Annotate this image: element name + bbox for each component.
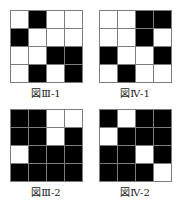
figure-caption-fig-4-2: 図Ⅳ-2: [120, 187, 150, 199]
grid-cell: [11, 164, 28, 181]
grid-cell: [100, 29, 117, 46]
grid-cell: [11, 128, 28, 145]
grid-cell: [154, 110, 171, 127]
figure-row-bottom: 図Ⅲ-2 図Ⅳ-2: [0, 109, 181, 199]
grid-cell: [136, 65, 153, 82]
grid-cell: [154, 29, 171, 46]
grid-cell: [154, 164, 171, 181]
grid-cell: [65, 47, 82, 64]
figure-fig-4-2: 図Ⅳ-2: [99, 109, 172, 199]
grid-cell: [65, 164, 82, 181]
figure-caption-fig-4-1: 図Ⅳ-1: [120, 88, 150, 100]
grid-cell: [47, 164, 64, 181]
grid-cell: [29, 29, 46, 46]
grid-cell: [29, 47, 46, 64]
figure-fig-3-1: 図Ⅲ-1: [10, 10, 83, 100]
grid-cell: [29, 146, 46, 163]
figure-caption-fig-3-1: 図Ⅲ-1: [31, 88, 60, 100]
grid-cell: [136, 47, 153, 64]
figure-collection: 図Ⅲ-1 図Ⅳ-1 図Ⅲ-2 図Ⅳ-2: [0, 0, 181, 199]
figure-caption-fig-3-2: 図Ⅲ-2: [31, 187, 60, 199]
grid-cell: [118, 146, 135, 163]
grid-cell: [11, 11, 28, 28]
grid-cell: [47, 11, 64, 28]
grid-cell: [100, 164, 117, 181]
grid-cell: [118, 11, 135, 28]
grid-cell: [136, 164, 153, 181]
grid-cell: [65, 29, 82, 46]
grid-cell: [29, 11, 46, 28]
grid-cell: [118, 164, 135, 181]
figure-fig-4-1: 図Ⅳ-1: [99, 10, 172, 100]
grid-cell: [100, 128, 117, 145]
grid-fig-4-2: [99, 109, 172, 182]
grid-cell: [65, 11, 82, 28]
grid-cell: [100, 146, 117, 163]
grid-cell: [118, 110, 135, 127]
grid-cell: [118, 47, 135, 64]
grid-cell: [154, 128, 171, 145]
grid-cell: [118, 29, 135, 46]
grid-cell: [118, 128, 135, 145]
grid-cell: [136, 110, 153, 127]
figure-sheet: 図Ⅲ-1 図Ⅳ-1 図Ⅲ-2 図Ⅳ-2: [0, 0, 181, 214]
figure-row-top: 図Ⅲ-1 図Ⅳ-1: [0, 10, 181, 100]
grid-cell: [154, 11, 171, 28]
grid-cell: [136, 146, 153, 163]
grid-cell: [11, 110, 28, 127]
grid-cell: [29, 164, 46, 181]
grid-cell: [136, 29, 153, 46]
grid-cell: [100, 65, 117, 82]
grid-cell: [47, 65, 64, 82]
grid-cell: [47, 110, 64, 127]
grid-fig-3-1: [10, 10, 83, 83]
grid-fig-4-1: [99, 10, 172, 83]
grid-cell: [65, 128, 82, 145]
grid-cell: [65, 65, 82, 82]
grid-cell: [29, 128, 46, 145]
grid-cell: [154, 47, 171, 64]
grid-cell: [47, 128, 64, 145]
grid-cell: [154, 146, 171, 163]
grid-cell: [47, 47, 64, 64]
grid-cell: [47, 146, 64, 163]
grid-cell: [11, 47, 28, 64]
grid-cell: [65, 110, 82, 127]
figure-fig-3-2: 図Ⅲ-2: [10, 109, 83, 199]
grid-cell: [11, 65, 28, 82]
grid-cell: [11, 146, 28, 163]
grid-fig-3-2: [10, 109, 83, 182]
grid-cell: [118, 65, 135, 82]
grid-cell: [136, 11, 153, 28]
grid-cell: [29, 65, 46, 82]
grid-cell: [65, 146, 82, 163]
grid-cell: [100, 47, 117, 64]
grid-cell: [100, 11, 117, 28]
grid-cell: [47, 29, 64, 46]
grid-cell: [154, 65, 171, 82]
grid-cell: [29, 110, 46, 127]
grid-cell: [136, 128, 153, 145]
grid-cell: [11, 29, 28, 46]
grid-cell: [100, 110, 117, 127]
